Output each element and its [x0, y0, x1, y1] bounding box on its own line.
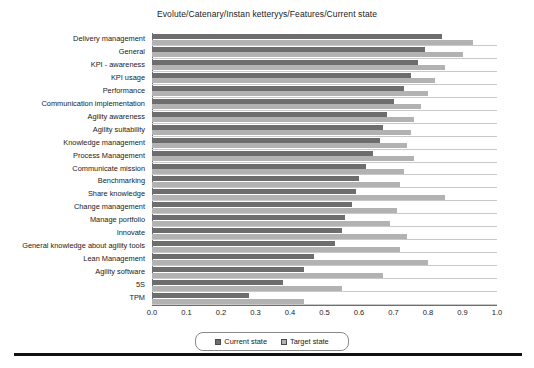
legend-label: Target state [290, 337, 329, 346]
y-axis-tick-label: Change management [74, 203, 145, 211]
y-axis-tick-label: Performance [103, 87, 145, 95]
x-axis-tick-label: 0.0 [147, 308, 158, 317]
bar-group [152, 163, 497, 176]
bar-group [152, 72, 497, 85]
x-axis-tick-label: 0.4 [285, 308, 296, 317]
y-axis-tick-label: Knowledge management [63, 139, 145, 147]
bar-group [152, 279, 497, 292]
bar-group [152, 46, 497, 59]
bar-current-state [152, 215, 345, 220]
bar-current-state [152, 138, 380, 143]
y-axis-tick-label: Communication implementation [41, 100, 145, 108]
bar-group [152, 98, 497, 111]
chart-legend: Current state Target state [195, 332, 349, 351]
bar-target-state [152, 117, 414, 122]
bar-target-state [152, 52, 463, 57]
chart-figure: Evolute/Catenary/Instan ketteryys/Featur… [0, 0, 534, 368]
bar-group [152, 240, 497, 253]
y-axis-tick-label: General [119, 48, 145, 56]
x-axis-tick-label: 0.6 [354, 308, 365, 317]
y-axis-tick-label: Lean Management [83, 255, 145, 263]
bar-target-state [152, 78, 435, 83]
bar-target-state [152, 195, 445, 200]
legend-swatch-icon [215, 339, 221, 345]
bar-current-state [152, 99, 394, 104]
x-axis-tick-label: 0.7 [388, 308, 399, 317]
y-axis-tick-label: Agility suitability [93, 126, 145, 134]
bottom-divider-rule [14, 353, 522, 356]
y-axis-tick-label: KPI usage [111, 74, 145, 82]
x-axis-tick-label: 0.8 [423, 308, 434, 317]
bar-current-state [152, 73, 411, 78]
bar-target-state [152, 208, 397, 213]
x-axis-tick-label: 1.0 [492, 308, 503, 317]
bar-current-state [152, 293, 249, 298]
bar-current-state [152, 267, 304, 272]
bar-current-state [152, 202, 352, 207]
x-axis-tick-label: 0.2 [216, 308, 227, 317]
bar-current-state [152, 60, 418, 65]
bar-group [152, 227, 497, 240]
x-axis-tick-label: 0.9 [457, 308, 468, 317]
y-axis-tick-label: Manage portfolio [90, 216, 145, 224]
x-axis-tick-labels: 0.00.10.20.30.40.50.60.70.80.91.0 [152, 308, 497, 322]
legend-item-current-state: Current state [215, 337, 267, 346]
bar-target-state [152, 273, 383, 278]
y-axis-tick-label: Share knowledge [88, 190, 145, 198]
bar-group [152, 111, 497, 124]
bar-target-state [152, 156, 414, 161]
bar-current-state [152, 86, 404, 91]
bar-current-state [152, 151, 373, 156]
bar-series-layer [152, 33, 497, 305]
bar-target-state [152, 143, 407, 148]
bar-target-state [152, 221, 390, 226]
bar-group [152, 175, 497, 188]
y-axis-tick-label: Agility software [95, 268, 145, 276]
bar-group [152, 33, 497, 46]
bar-current-state [152, 164, 366, 169]
bar-target-state [152, 169, 404, 174]
y-axis-tick-label: Communicate mission [72, 165, 145, 173]
bar-current-state [152, 228, 342, 233]
y-axis-tick-labels: Delivery managementGeneralKPI - awarenes… [0, 33, 149, 305]
y-axis-tick-label: KPI - awareness [91, 61, 145, 69]
bar-current-state [152, 47, 425, 52]
x-axis-line [152, 305, 497, 306]
y-axis-tick-label: Benchmarking [98, 177, 145, 185]
bar-current-state [152, 189, 356, 194]
bar-group [152, 137, 497, 150]
bar-target-state [152, 299, 304, 304]
y-axis-tick-label: Delivery management [73, 35, 145, 43]
x-axis-tick-label: 0.3 [250, 308, 261, 317]
x-axis-tick-label: 0.1 [181, 308, 192, 317]
bar-group [152, 266, 497, 279]
legend-item-target-state: Target state [281, 337, 329, 346]
bar-target-state [152, 247, 400, 252]
bar-current-state [152, 280, 283, 285]
bar-group [152, 124, 497, 137]
bar-target-state [152, 130, 411, 135]
bar-target-state [152, 40, 473, 45]
bar-group [152, 253, 497, 266]
bar-group [152, 292, 497, 305]
bar-current-state [152, 125, 383, 130]
bar-group [152, 85, 497, 98]
bar-target-state [152, 260, 428, 265]
bar-target-state [152, 286, 342, 291]
chart-title: Evolute/Catenary/Instan ketteryys/Featur… [0, 9, 534, 19]
bar-current-state [152, 241, 335, 246]
bar-group [152, 214, 497, 227]
y-axis-tick-label: 5S [136, 281, 145, 289]
x-axis-tick-label: 0.5 [319, 308, 330, 317]
plot-area [152, 33, 497, 305]
bar-current-state [152, 254, 314, 259]
bar-group [152, 150, 497, 163]
bar-target-state [152, 91, 428, 96]
bar-group [152, 59, 497, 72]
bar-current-state [152, 112, 387, 117]
y-axis-tick-label: Innovate [117, 229, 145, 237]
y-axis-tick-label: General knowledge about agility tools [22, 242, 145, 250]
bar-target-state [152, 65, 445, 70]
bar-current-state [152, 176, 359, 181]
y-axis-tick-label: Agility awareness [87, 113, 145, 121]
